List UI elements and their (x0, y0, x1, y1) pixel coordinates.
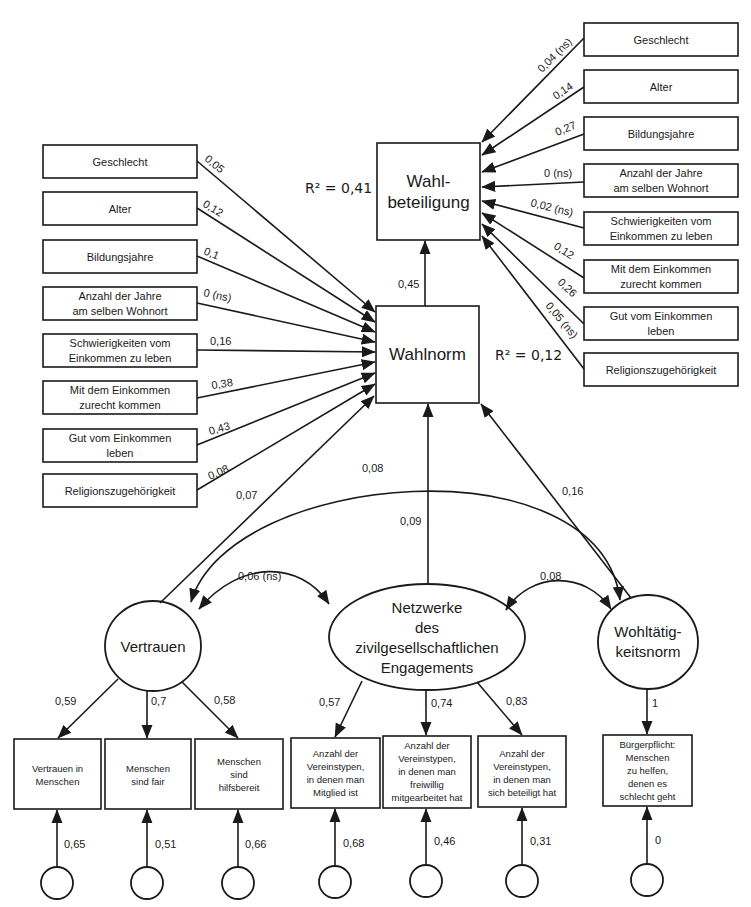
error-circle-1 (131, 867, 163, 899)
right-predictor-schwierigkeiten: Schwierigkeiten vom Einkommen zu leben (584, 212, 738, 245)
path-left-schwierigkeiten (197, 350, 375, 352)
svg-text:0 (ns): 0 (ns) (203, 286, 233, 304)
svg-text:Schwierigkeiten vom: Schwierigkeiten vom (611, 215, 712, 227)
svg-text:am selben Wohnort: am selben Wohnort (613, 182, 708, 194)
right-predictor-geschlecht: Geschlecht (584, 23, 738, 56)
corr-netzwerke-wohltaetigkeit (506, 581, 611, 610)
sem-path-diagram: Wahl- beteiligung R² = 0,41 Wahlnorm R² … (0, 0, 751, 907)
loading-arrow-3 (335, 681, 362, 737)
path-left-alter (197, 208, 375, 322)
error-circle-6 (631, 864, 663, 896)
svg-text:0,05: 0,05 (203, 152, 227, 175)
svg-text:Anzahl der: Anzahl der (499, 748, 544, 759)
svg-text:0,08: 0,08 (206, 462, 230, 482)
svg-text:0,09: 0,09 (400, 515, 421, 527)
svg-text:Menschen: Menschen (626, 752, 670, 763)
wahlnorm-label: Wahlnorm (389, 345, 466, 364)
indicators: Vertrauen in Menschen Menschen sind fair… (14, 735, 692, 809)
svg-text:0,51: 0,51 (155, 838, 176, 850)
svg-text:Geschlecht: Geschlecht (633, 34, 688, 46)
svg-text:0,07: 0,07 (236, 489, 257, 501)
svg-text:0,43: 0,43 (207, 419, 231, 436)
latent-netzwerke: Netzwerke des zivilgesellschaftlichen En… (329, 584, 525, 690)
path-wohltaetigkeit-to-wahlnorm (481, 404, 631, 598)
svg-text:Wohltätig-: Wohltätig- (614, 623, 681, 640)
indicator-buergerpflicht: Bürgerpflicht: Menschen zu helfen, denen… (603, 735, 692, 806)
loading-arrow-0 (58, 679, 118, 738)
svg-text:Menschen: Menschen (217, 756, 261, 767)
svg-text:Religionszugehörigkeit: Religionszugehörigkeit (65, 485, 176, 497)
svg-text:Vereinstypen,: Vereinstypen, (398, 753, 456, 764)
svg-text:0,38: 0,38 (211, 376, 234, 391)
svg-text:in denen man: in denen man (398, 766, 456, 777)
svg-text:0,06 (ns): 0,06 (ns) (238, 570, 281, 582)
error-terms: 0,65 0,51 0,66 0,68 0,46 0,31 0 (41, 807, 663, 899)
svg-text:Vereinstypen,: Vereinstypen, (493, 761, 551, 772)
left-predictor-religion: Religionszugehörigkeit (43, 474, 197, 507)
svg-text:Bürgerpflicht:: Bürgerpflicht: (620, 739, 676, 750)
svg-text:Vertrauen in: Vertrauen in (32, 763, 83, 774)
svg-text:sich beteiligt hat: sich beteiligt hat (488, 787, 556, 798)
indicator-vereine-mitglied: Anzahl der Vereinstypen, in denen man Mi… (291, 738, 380, 808)
wahlbeteiligung-label-2: beteiligung (387, 193, 469, 212)
indicator-vereine-beteiligt: Anzahl der Vereinstypen, in denen man si… (478, 736, 566, 807)
svg-text:sind fair: sind fair (131, 776, 164, 787)
r-squared-wahlnorm: R² = 0,12 (495, 347, 562, 363)
svg-text:leben: leben (648, 325, 675, 337)
svg-text:Mit dem Einkommen: Mit dem Einkommen (70, 384, 170, 396)
svg-text:0,31: 0,31 (530, 835, 551, 847)
svg-text:0,59: 0,59 (55, 695, 76, 707)
node-wahlnorm: Wahlnorm (376, 306, 479, 403)
svg-text:Engagements: Engagements (381, 659, 474, 676)
svg-text:in denen man: in denen man (493, 774, 551, 785)
svg-text:0,12: 0,12 (552, 240, 577, 262)
r-squared-wahlbeteiligung: R² = 0,41 (305, 180, 372, 196)
svg-text:denen es: denen es (628, 778, 667, 789)
right-predictor-religion: Religionszugehörigkeit (584, 353, 738, 386)
svg-text:Alter: Alter (109, 203, 132, 215)
svg-text:Gut vom Einkommen: Gut vom Einkommen (69, 432, 172, 444)
svg-text:0,57: 0,57 (319, 696, 340, 708)
left-predictors: Geschlecht Alter Bildungsjahre Anzahl de… (43, 145, 375, 507)
svg-text:Anzahl der: Anzahl der (313, 748, 358, 759)
svg-text:Netzwerke: Netzwerke (392, 599, 463, 616)
svg-text:0,12: 0,12 (201, 197, 226, 218)
svg-text:0,16: 0,16 (562, 485, 583, 497)
svg-text:freiwillig: freiwillig (410, 779, 444, 790)
svg-text:hilfsbereit: hilfsbereit (219, 782, 260, 793)
svg-text:Anzahl der: Anzahl der (404, 740, 449, 751)
svg-text:0 (ns): 0 (ns) (544, 167, 572, 179)
svg-text:Vereinstypen,: Vereinstypen, (307, 761, 365, 772)
svg-text:0,26: 0,26 (556, 276, 580, 300)
svg-text:Einkommen zu leben: Einkommen zu leben (610, 230, 713, 242)
svg-text:Alter: Alter (650, 81, 673, 93)
indicator-menschen-hilfsbereit: Menschen sind hilfsbereit (195, 739, 283, 809)
loading-arrow-5 (477, 682, 522, 735)
svg-text:Mitglied ist: Mitglied ist (313, 787, 358, 798)
error-circle-5 (506, 865, 538, 897)
svg-text:0,74: 0,74 (431, 697, 452, 709)
svg-text:keitsnorm: keitsnorm (615, 643, 680, 660)
error-circle-4 (410, 865, 442, 897)
coef-wahlnorm-wahlbeteiligung: 0,45 (398, 278, 419, 290)
svg-text:Menschen: Menschen (36, 776, 80, 787)
left-predictor-zurecht-kommen: Mit dem Einkommen zurecht kommen (43, 381, 197, 414)
svg-text:0,08: 0,08 (362, 462, 383, 474)
svg-text:am selben Wohnort: am selben Wohnort (72, 305, 167, 317)
error-circle-3 (319, 866, 351, 898)
svg-text:1: 1 (652, 697, 658, 709)
svg-text:Menschen: Menschen (126, 763, 170, 774)
svg-text:0,68: 0,68 (343, 837, 364, 849)
svg-text:0,58: 0,58 (214, 694, 235, 706)
svg-text:0,14: 0,14 (550, 80, 574, 102)
svg-text:zivilgesellschaftlichen: zivilgesellschaftlichen (355, 639, 498, 656)
wahlbeteiligung-label-1: Wahl- (407, 172, 451, 191)
svg-text:zurecht kommen: zurecht kommen (79, 399, 160, 411)
svg-text:0,66: 0,66 (245, 838, 266, 850)
left-predictor-schwierigkeiten: Schwierigkeiten vom Einkommen zu leben (43, 334, 197, 367)
path-right-gut (482, 224, 584, 324)
right-predictor-jahre-wohnort: Anzahl der Jahre am selben Wohnort (584, 164, 738, 197)
svg-text:Gut vom Einkommen: Gut vom Einkommen (610, 310, 713, 322)
svg-text:leben: leben (107, 447, 134, 459)
latent-wohltaetigkeitsnorm: Wohltätig- keitsnorm (598, 595, 698, 689)
